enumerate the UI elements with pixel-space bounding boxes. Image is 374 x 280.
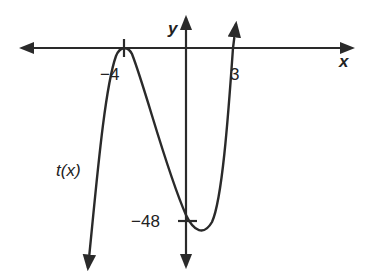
tick-label-neg48: −48: [131, 213, 160, 230]
x-axis-label: x: [339, 53, 348, 70]
tick-label-neg4: −4: [100, 66, 119, 83]
tick-label-3: 3: [230, 66, 239, 83]
function-label: t(x): [56, 162, 81, 179]
polynomial-graph: y x −4 3 −48 t(x): [0, 0, 374, 280]
function-curve: [88, 24, 236, 268]
y-axis-label: y: [168, 20, 177, 37]
graph-canvas: [0, 0, 374, 280]
